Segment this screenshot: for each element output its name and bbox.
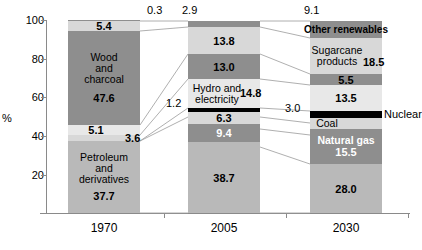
segment-2030-sugarcane-label-line2: products bbox=[317, 56, 357, 67]
segment-2030-coal: Coal bbox=[310, 118, 382, 129]
y-tick-40 bbox=[41, 136, 46, 137]
y-tick-100 bbox=[41, 20, 46, 21]
segment-1970-sugarcane-products: 5.4 bbox=[68, 21, 140, 31]
segment-1970-petroleum: Petroleum and derivatives 37.7 bbox=[68, 141, 140, 213]
segment-1970-wood-and-charcoal: Wood and charcoal 47.6 bbox=[68, 31, 140, 125]
x-axis-label-1970: 1970 bbox=[49, 221, 159, 235]
callout-2030-sugarcane-value: 18.5 bbox=[363, 56, 384, 68]
segment-2005-sugarcane-value: 13.8 bbox=[213, 35, 234, 47]
y-axis-title: % bbox=[2, 112, 12, 124]
segment-2030-coal-label: Coal bbox=[316, 118, 338, 129]
segment-2030-natural-gas-value: 15.5 bbox=[335, 146, 356, 158]
x-axis-label-2030: 2030 bbox=[291, 221, 401, 235]
segment-2005-coal: 6.3 bbox=[188, 112, 260, 124]
callout-2005-nuclear: 1.2 bbox=[166, 97, 181, 109]
x-tick-1 bbox=[164, 213, 165, 218]
segment-2030-hydro-value: 13.5 bbox=[335, 92, 356, 104]
segment-2005-petroleum: 38.7 bbox=[188, 142, 260, 213]
y-axis-line bbox=[46, 20, 47, 214]
y-tick-60 bbox=[41, 97, 46, 98]
callout-2005-hydro-value: 14.8 bbox=[240, 87, 261, 99]
label-nuclear: Nuclear bbox=[384, 108, 422, 120]
segment-2030-petroleum: 28.0 bbox=[310, 164, 382, 213]
y-axis-labels: 100 80 60 40 20 bbox=[0, 0, 44, 250]
segment-2005-hydro-label-line2: electricity bbox=[195, 94, 239, 105]
segment-2030-wood-and-charcoal: 5.5 bbox=[310, 74, 382, 85]
callout-2005-other-renewables: 2.9 bbox=[182, 4, 197, 16]
x-tick-2 bbox=[286, 213, 287, 218]
segment-2005-coal-value: 6.3 bbox=[216, 112, 231, 124]
segment-2030-wood-value: 5.5 bbox=[338, 74, 353, 86]
y-tick-80 bbox=[41, 59, 46, 60]
segment-1970-wood-value: 47.6 bbox=[93, 92, 114, 104]
segment-2005-sugarcane-products: 13.8 bbox=[188, 27, 260, 54]
callout-1970-other-renewables: 0.3 bbox=[147, 4, 162, 16]
callout-1970-coal: 3.6 bbox=[125, 132, 140, 144]
segment-1970-petroleum-label-line3: derivatives bbox=[79, 174, 129, 185]
y-tick-20 bbox=[41, 175, 46, 176]
segment-2030-other-renewables: Other renewables bbox=[310, 21, 382, 38]
segment-2005-petroleum-value: 38.7 bbox=[213, 172, 234, 184]
x-axis-label-2005: 2005 bbox=[169, 221, 279, 235]
segment-2030-natural-gas: Natural gas 15.5 bbox=[310, 129, 382, 164]
segment-2030-petroleum-value: 28.0 bbox=[335, 183, 356, 195]
callout-2030-nuclear: 3.0 bbox=[285, 102, 300, 114]
callout-2030-other-renewables: 9.1 bbox=[304, 4, 319, 16]
segment-1970-wood-label-line3: charcoal bbox=[84, 74, 124, 85]
segment-2030-natural-gas-label: Natural gas bbox=[317, 135, 374, 146]
x-tick-3 bbox=[408, 213, 409, 218]
segment-2005-wood-and-charcoal: 13.0 bbox=[188, 54, 260, 79]
segment-2005-hydro-label-line1: Hydro and bbox=[193, 83, 241, 94]
segment-2005-natural-gas-value: 9.4 bbox=[216, 127, 231, 139]
segment-2005-natural-gas: 9.4 bbox=[188, 124, 260, 142]
segment-1970-petroleum-value: 37.7 bbox=[93, 190, 114, 202]
segment-2030-hydro-and-electricity: 13.5 bbox=[310, 85, 382, 111]
segment-2005-wood-value: 13.0 bbox=[213, 61, 234, 73]
x-axis-line bbox=[40, 213, 410, 214]
segment-2030-other-renewables-label: Other renewables bbox=[304, 24, 388, 35]
